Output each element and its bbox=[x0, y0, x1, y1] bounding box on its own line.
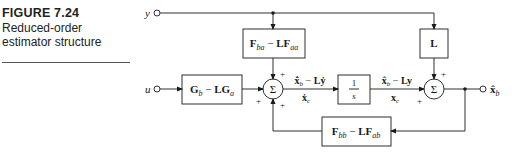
sum1-output-label-bottom: ẋc bbox=[302, 92, 311, 105]
sum1-sign-top: + bbox=[280, 69, 285, 79]
integrator-output-label-top: x̂b − Ly bbox=[382, 75, 412, 88]
integrator-numerator: 1 bbox=[352, 78, 357, 88]
y-input-terminal bbox=[154, 10, 160, 16]
sum2-sign-left: + bbox=[417, 96, 422, 106]
l-block-label: L bbox=[430, 37, 437, 49]
gb-block-label: Gb − LGa bbox=[190, 83, 234, 98]
fbb-block-label: Fbb − LFab bbox=[332, 125, 381, 140]
y-input-label: y bbox=[144, 7, 150, 19]
u-input-terminal bbox=[154, 86, 160, 92]
block-diagram: y u x̂b Fba − LFaa Gb − LGa 1 s L Fbb − … bbox=[0, 0, 525, 155]
integrator-denominator: s bbox=[352, 91, 356, 101]
sum1-sign-bottom: + bbox=[280, 100, 285, 110]
integrator-output-label-bottom: xc bbox=[391, 92, 400, 105]
sum1-output-label-top: x̂̇b − Lẏ bbox=[295, 75, 326, 88]
sum1-symbol: Σ bbox=[270, 83, 276, 95]
y-junction-dot bbox=[271, 11, 275, 15]
sum2-sign-top: + bbox=[441, 69, 446, 79]
fba-block-label: Fba − LFaa bbox=[250, 37, 299, 52]
output-label: x̂b bbox=[490, 83, 500, 98]
sum1-sign-left: + bbox=[256, 96, 261, 106]
feedback-to-fbb-arrow bbox=[391, 89, 465, 131]
u-input-label: u bbox=[145, 83, 151, 95]
output-terminal bbox=[480, 86, 486, 92]
sum2-symbol: Σ bbox=[431, 83, 437, 95]
output-junction-dot bbox=[463, 87, 467, 91]
